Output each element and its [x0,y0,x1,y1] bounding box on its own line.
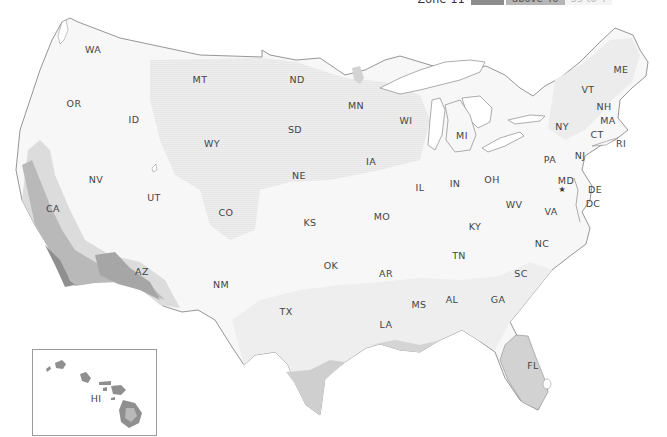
state-label-il: IL [416,182,425,193]
state-label-ny: NY [555,121,569,132]
hawaii-inset: HI [32,349,157,436]
state-label-me: ME [614,64,629,75]
state-label-wv: WV [506,199,523,210]
island-maui [111,385,126,395]
state-label-or: OR [67,98,82,109]
state-label-al: AL [446,294,459,305]
state-label-ma: MA [600,115,616,126]
island-molokai [99,381,111,385]
state-label-oh: OH [484,174,499,185]
state-label-ky: KY [469,221,482,232]
state-label-tx: TX [279,306,292,317]
state-label-va: VA [544,206,557,217]
state-label-ms: MS [411,299,426,310]
state-label-wi: WI [400,115,413,126]
state-label-vt: VT [581,84,594,95]
state-label-ri: RI [616,138,626,149]
island-kauai [55,360,66,369]
state-label-ok: OK [324,260,339,271]
state-label-nm: NM [213,279,229,290]
state-label-tn: TN [452,250,466,261]
capital-star-icon: ★ [558,185,565,194]
state-label-co: CO [219,207,234,218]
state-label-wy: WY [204,138,220,149]
state-label-in: IN [450,178,461,189]
state-label-ga: GA [491,294,506,305]
lake-okeechobee [543,379,551,389]
state-label-ks: KS [303,217,316,228]
state-label-mo: MO [374,211,390,222]
state-label-dc: DC [586,198,601,209]
state-label-mt: MT [193,74,208,85]
state-label-id: ID [129,114,140,125]
state-label-az: AZ [135,266,149,277]
state-label-ct: CT [590,129,603,140]
state-label-de: DE [588,184,602,195]
state-label-ne: NE [292,170,306,181]
state-label-nj: NJ [575,150,586,161]
state-label-ia: IA [366,156,376,167]
state-label-hi: HI [91,393,102,404]
state-label-mi: MI [456,130,468,141]
state-label-sc: SC [514,268,527,279]
island-oahu [80,372,91,383]
state-label-sd: SD [288,124,302,135]
zone-florida [500,335,548,410]
state-label-nc: NC [535,238,550,249]
state-label-pa: PA [544,154,556,165]
state-label-fl: FL [527,360,539,371]
state-label-la: LA [380,319,393,330]
state-label-mn: MN [348,100,364,111]
island-lanai [103,387,107,391]
island-niihau [46,366,51,372]
state-label-wa: WA [85,44,101,55]
state-label-ca: CA [46,203,60,214]
state-label-nd: ND [289,74,304,85]
state-label-nv: NV [89,174,103,185]
state-label-nh: NH [596,101,611,112]
island-kahoolawe [111,397,115,400]
state-label-ar: AR [379,268,393,279]
state-label-ut: UT [147,192,161,203]
